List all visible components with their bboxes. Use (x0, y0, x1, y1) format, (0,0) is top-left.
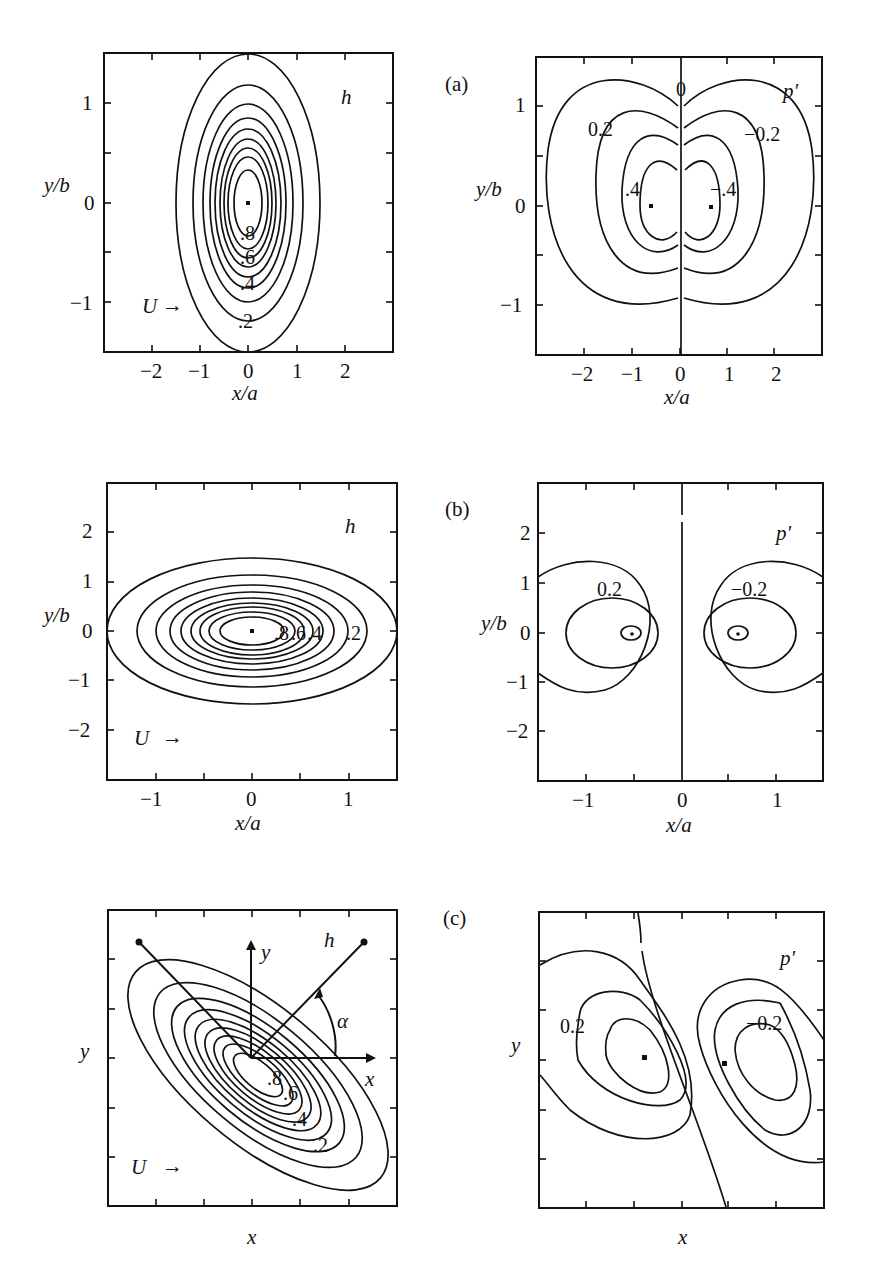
x-axis-label: x (246, 1225, 257, 1249)
y-tick: 1 (520, 571, 531, 595)
contours-p-right (684, 80, 814, 304)
x-tick: 1 (343, 787, 354, 811)
contour-label: .4 (625, 178, 640, 200)
panel-b-h: .8 .6 .4 .2 h U → 2 1 0 −1 −2 y/b −1 0 1… (42, 483, 397, 835)
rotated-x-label: x (364, 1067, 375, 1091)
panel-c-p: 0.2 −0.2 p' y x (509, 912, 824, 1249)
contour-label: .4 (292, 1108, 307, 1130)
x-tick: 2 (340, 359, 351, 383)
contour-label: 0.2 (588, 118, 613, 140)
y-tick: 0 (520, 621, 531, 645)
y-axis-label: y (78, 1039, 90, 1063)
flow-arrow-icon: → (162, 1154, 183, 1178)
panel-c-h: y x α .8 .6 .4 .2 h U → y x (78, 910, 424, 1249)
contour-label: .4 (240, 272, 255, 294)
y-tick: 0 (82, 619, 93, 643)
contour-label: 0 (676, 78, 686, 100)
y-tick: −2 (68, 718, 90, 742)
contours-h-rotated (92, 920, 425, 1230)
flow-arrow-icon: → (162, 725, 183, 749)
panel-a-p: 0 0.2 −0.2 .4 −.4 p' 1 0 −1 y/b −2 −1 0 … (474, 57, 822, 409)
x-tick: −1 (621, 362, 643, 386)
y-axis-label: y (509, 1033, 521, 1057)
panel-label-a: (a) (445, 72, 468, 96)
variable-label-p: p' (774, 521, 792, 545)
contour-label: .2 (238, 310, 253, 332)
contour-label: .8 (267, 1067, 282, 1089)
contours-h (176, 54, 320, 352)
panel-label-c: (c) (443, 906, 466, 930)
x-tick: −1 (572, 788, 594, 812)
flow-label: U (142, 294, 159, 318)
panel-label-b: (b) (445, 497, 470, 521)
y-tick: −1 (500, 293, 522, 317)
contour-label: −.4 (710, 178, 736, 200)
x-tick: 0 (675, 362, 686, 386)
y-axis-label: y/b (42, 603, 70, 627)
contour-label: −0.2 (731, 578, 767, 600)
x-tick: 0 (243, 359, 254, 383)
contour-label: −0.2 (746, 1012, 782, 1034)
x-tick: 1 (292, 359, 303, 383)
x-axis-label: x/a (663, 385, 690, 409)
variable-label-h: h (341, 85, 352, 109)
x-tick: −1 (140, 787, 162, 811)
x-tick: 1 (772, 788, 783, 812)
contour-label: −0.2 (744, 123, 780, 145)
rotated-y-label: y (259, 940, 271, 964)
x-tick: −2 (140, 359, 162, 383)
x-axis-label: x/a (231, 381, 258, 405)
variable-label-h: h (345, 514, 356, 538)
flow-label: U (131, 1155, 148, 1179)
y-axis-label: y/b (474, 177, 502, 201)
x-axis-label: x/a (234, 811, 261, 835)
x-tick: 2 (771, 362, 782, 386)
angle-label: α (337, 1009, 349, 1033)
rotated-axes (136, 939, 377, 1064)
panel-a-h: .8 .6 .4 .2 h U → 1 0 −1 y/b −2 −1 0 1 2… (42, 53, 393, 405)
x-axis-label: x (677, 1225, 688, 1249)
variable-label-h: h (324, 928, 335, 952)
contour-label: .6 (283, 1082, 298, 1104)
y-tick: 2 (520, 521, 531, 545)
flow-label: U (134, 726, 151, 750)
contour-label: .2 (313, 1134, 328, 1156)
x-axis-label: x/a (665, 813, 692, 837)
figure: .8 .6 .4 .2 h U → 1 0 −1 y/b −2 −1 0 1 2… (0, 0, 872, 1283)
x-tick: 1 (724, 362, 735, 386)
panel-b-p: 0.2 −0.2 p' 2 1 0 −1 −2 y/b −1 0 1 x/a (479, 483, 823, 837)
variable-label-p: p' (778, 946, 796, 970)
contour-label: .8 (240, 222, 255, 244)
y-tick: 2 (82, 519, 93, 543)
contour-label: .2 (346, 622, 361, 644)
y-tick: 1 (515, 93, 526, 117)
x-tick: −2 (571, 362, 593, 386)
contour-label: .6 (291, 622, 306, 644)
contour-label: .8 (274, 622, 289, 644)
y-tick: −1 (70, 291, 92, 315)
y-tick: 1 (82, 91, 93, 115)
x-tick: 0 (246, 787, 257, 811)
y-axis-label: y/b (479, 611, 507, 635)
y-tick: −1 (506, 670, 528, 694)
x-tick: 0 (677, 788, 688, 812)
y-tick: 0 (515, 194, 526, 218)
x-tick: −1 (188, 359, 210, 383)
variable-label-p: p' (781, 79, 799, 103)
ticks (536, 57, 822, 355)
y-tick: 0 (84, 191, 95, 215)
contour-label: 0.2 (597, 578, 622, 600)
contour-label: .6 (240, 246, 255, 268)
contours-p-left (546, 80, 678, 304)
flow-arrow-icon: → (162, 293, 183, 317)
contour-label: 0.2 (560, 1015, 585, 1037)
contour-label: .4 (307, 622, 322, 644)
y-tick: −2 (506, 719, 528, 743)
y-axis-label: y/b (42, 173, 70, 197)
y-tick: −1 (68, 668, 90, 692)
y-tick: 1 (82, 569, 93, 593)
